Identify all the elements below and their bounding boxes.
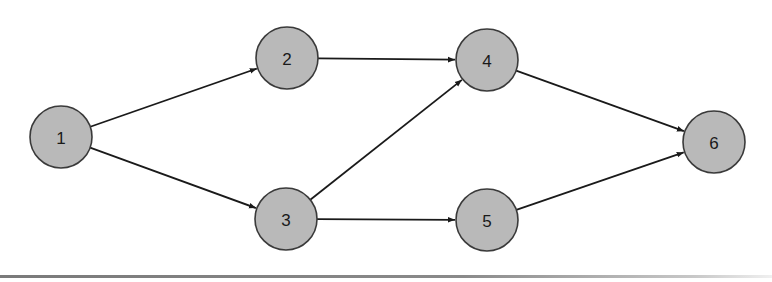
edge-3-to-5: [317, 219, 455, 220]
node-label: 1: [56, 129, 65, 148]
node-3: 3: [255, 188, 317, 250]
node-label: 5: [482, 212, 491, 231]
network-diagram: 123456: [0, 0, 772, 282]
edge-4-to-6: [516, 71, 684, 132]
edge-1-to-2: [90, 69, 257, 127]
node-label: 4: [482, 52, 491, 71]
node-6: 6: [683, 111, 745, 173]
node-2: 2: [256, 27, 318, 89]
node-label: 2: [282, 50, 291, 69]
edge-2-to-4: [318, 58, 455, 59]
bottom-rule: [0, 275, 772, 278]
node-label: 6: [709, 134, 718, 153]
node-5: 5: [456, 189, 518, 251]
edge-1-to-3: [90, 148, 256, 208]
node-4: 4: [456, 29, 518, 91]
edges: [90, 58, 684, 220]
node-label: 3: [281, 211, 290, 230]
node-1: 1: [30, 106, 92, 168]
edge-3-to-4: [310, 80, 462, 200]
edge-5-to-6: [516, 152, 683, 210]
